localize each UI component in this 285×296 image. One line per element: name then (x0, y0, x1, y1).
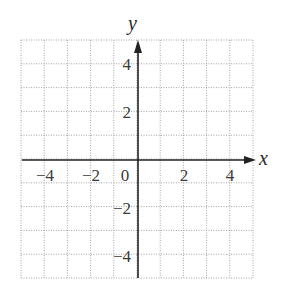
y-tick-label: −2 (113, 199, 131, 218)
y-tick-label: −4 (113, 247, 132, 266)
y-axis-arrow-icon (134, 40, 142, 53)
y-tick-label: 2 (123, 103, 132, 122)
x-axis-label: x (258, 147, 268, 169)
x-tick-label: 4 (226, 166, 235, 185)
coordinate-plane: x y −4 −2 0 2 4 4 2 −2 −4 (0, 0, 285, 296)
y-axis-label: y (126, 12, 137, 35)
x-tick-label: −4 (36, 166, 55, 185)
x-axis-arrow-icon (244, 156, 256, 164)
x-tick-label: 0 (121, 166, 130, 185)
x-tick-label: −2 (82, 166, 100, 185)
y-tick-label: 4 (123, 55, 132, 74)
grid-lines (21, 40, 253, 278)
x-tick-label: 2 (180, 166, 189, 185)
